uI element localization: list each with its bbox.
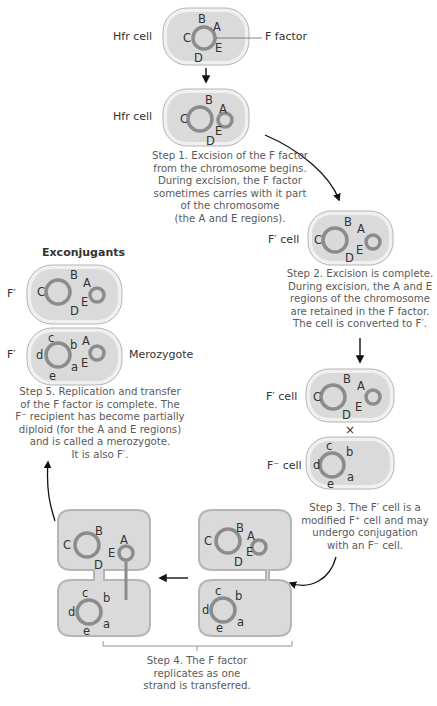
svg-text:c: c [48, 331, 54, 345]
svg-text:E: E [215, 124, 222, 138]
svg-text:d: d [68, 605, 75, 619]
svg-text:d: d [202, 603, 209, 617]
fprime-cell-step3: B A C E D [306, 369, 394, 422]
svg-text:C: C [313, 390, 321, 404]
merozygote-label: Merozygote [129, 348, 193, 361]
svg-text:A: A [120, 533, 128, 547]
svg-text:D: D [206, 134, 215, 148]
svg-text:e: e [83, 624, 90, 638]
svg-text:b: b [346, 445, 353, 459]
hfr-cell-2: B A C E D [163, 89, 249, 148]
svg-text:B: B [343, 372, 351, 386]
f-factor-label: F factor [265, 30, 307, 43]
svg-text:B: B [198, 12, 206, 26]
svg-text:e: e [327, 477, 334, 491]
svg-text:b: b [235, 589, 242, 603]
svg-text:A: A [247, 529, 255, 543]
svg-text:b: b [70, 338, 77, 352]
svg-text:D: D [94, 558, 103, 572]
svg-text:B: B [70, 268, 78, 282]
svg-text:C: C [63, 538, 71, 552]
svg-text:D: D [194, 51, 203, 65]
svg-text:a: a [103, 617, 110, 631]
svg-text:D: D [342, 408, 351, 422]
svg-text:A: A [219, 102, 227, 116]
svg-text:B: B [344, 215, 352, 229]
exconjugant-cell-2-merozygote: c b A d E a e [27, 328, 122, 385]
svg-text:B: B [205, 93, 213, 107]
svg-text:A: A [357, 222, 365, 236]
step4-bracket [103, 641, 292, 651]
caption-step2: Step 2. Excision is complete. During exc… [265, 268, 437, 331]
conjugating-pair-right: B A C E D c b d a e [199, 510, 291, 636]
fminus-cell-step3: c b d a e [306, 437, 394, 491]
exconjugant-1-label: F′ [7, 287, 16, 300]
svg-text:C: C [37, 285, 45, 299]
svg-text:D: D [234, 555, 243, 569]
cross-symbol: × [345, 423, 355, 437]
hfr-cell-label-2: Hfr cell [113, 110, 152, 123]
svg-text:a: a [347, 470, 354, 484]
svg-text:D: D [70, 304, 79, 318]
exconjugant-2-label: F′ [7, 348, 16, 361]
svg-text:E: E [246, 545, 253, 559]
fprime-cell-label-step3: F′ cell [266, 390, 297, 403]
svg-text:A: A [82, 334, 90, 348]
svg-text:E: E [108, 546, 115, 560]
fminus-cell-label: F⁻ cell [267, 459, 302, 472]
svg-text:E: E [81, 295, 88, 309]
caption-step5: Step 5. Replication and transfer of the … [0, 386, 200, 462]
svg-text:c: c [82, 586, 88, 600]
hfr-cell-1: B A C E D [163, 8, 262, 65]
caption-step1: Step 1. Excision of the F factor from th… [130, 150, 330, 226]
fprime-cell-label-step2: F′ cell [268, 233, 299, 246]
svg-text:a: a [237, 615, 244, 629]
svg-text:C: C [183, 31, 191, 45]
svg-text:E: E [356, 243, 363, 257]
svg-text:d: d [36, 348, 43, 362]
svg-text:E: E [215, 41, 222, 55]
svg-text:B: B [95, 524, 103, 538]
svg-text:e: e [216, 621, 223, 635]
svg-text:e: e [49, 369, 56, 383]
svg-text:C: C [314, 233, 322, 247]
svg-text:A: A [357, 379, 365, 393]
arrow-to-step5 [47, 462, 55, 521]
svg-text:c: c [326, 439, 332, 453]
svg-text:E: E [355, 400, 362, 414]
conjugating-pair-left: B A C E D c b d a e [58, 510, 150, 638]
arrow-step3-to-pair [290, 557, 336, 585]
svg-text:A: A [83, 276, 91, 290]
svg-text:C: C [204, 534, 212, 548]
exconjugant-cell-1: B A C E D [27, 265, 122, 324]
svg-text:b: b [103, 591, 110, 605]
svg-text:c: c [215, 584, 221, 598]
svg-text:C: C [180, 112, 188, 126]
svg-text:A: A [213, 20, 221, 34]
hfr-cell-label-1: Hfr cell [113, 30, 152, 43]
caption-step3: Step 3. The F′ cell is a modified F⁺ cel… [290, 502, 437, 552]
svg-text:D: D [345, 251, 354, 265]
svg-text:B: B [236, 521, 244, 535]
svg-text:a: a [71, 360, 78, 374]
caption-step4: Step 4. The F factor replicates as one s… [127, 655, 267, 693]
svg-text:E: E [81, 356, 88, 370]
exconjugants-heading: Exconjugants [42, 246, 125, 259]
svg-text:d: d [313, 458, 320, 472]
